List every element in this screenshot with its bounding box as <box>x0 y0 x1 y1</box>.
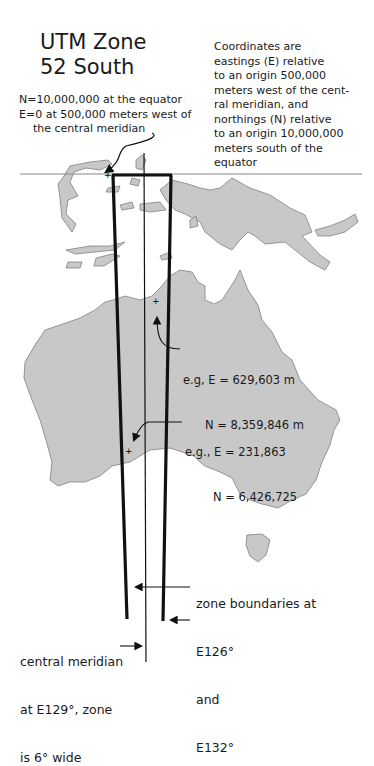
example2-northing: N = 6,426,725 <box>185 490 297 505</box>
central-meridian-label: central meridian at E129°, zone is 6° wi… <box>20 622 123 766</box>
central-meridian-line-3: is 6° wide <box>20 750 123 766</box>
central-meridian-line-2: at E129°, zone <box>20 702 123 718</box>
new-britain <box>315 214 358 236</box>
example2-marker: + <box>125 446 133 456</box>
tasmania <box>246 534 270 562</box>
zone-boundaries-and: and <box>196 692 316 708</box>
example1-marker: + <box>152 296 160 306</box>
example2-easting: e.g., E = 231,863 <box>185 445 297 460</box>
zone-boundary-east-label: E132° <box>196 740 316 756</box>
zone-boundary-west-label: E126° <box>196 644 316 660</box>
equator-note-arrow <box>106 133 154 172</box>
example2-label: e.g., E = 231,863 N = 6,426,725 <box>185 415 297 520</box>
zone-boundaries-heading: zone boundaries at <box>196 596 316 612</box>
example1-easting: e.g, E = 629,603 m <box>183 373 304 388</box>
new-guinea <box>160 178 330 270</box>
origin-marker: + <box>104 170 112 180</box>
central-meridian-line-1: central meridian <box>20 654 123 670</box>
zone-boundaries-label: zone boundaries at E126° and E132° <box>196 564 316 766</box>
